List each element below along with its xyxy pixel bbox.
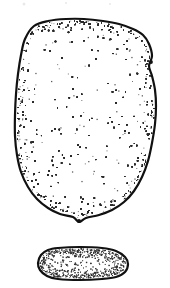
stipple-dot	[50, 25, 51, 26]
stipple-dot	[60, 255, 61, 256]
stipple-dot	[79, 125, 80, 126]
stipple-dot	[27, 158, 28, 159]
stipple-dot	[49, 269, 50, 270]
stipple-dot	[20, 101, 21, 102]
stipple-dot	[142, 165, 143, 166]
stipple-dot	[74, 255, 75, 256]
stipple-dot	[73, 277, 74, 278]
stipple-dot	[83, 278, 84, 279]
stipple-dot	[53, 208, 54, 209]
stipple-dot	[73, 276, 74, 277]
stipple-dot	[77, 250, 78, 251]
stipple-dot	[96, 276, 97, 277]
stipple-dot	[144, 112, 145, 113]
stipple-dot	[21, 162, 22, 163]
stipple-dot	[78, 272, 79, 273]
stipple-dot	[144, 60, 145, 61]
stipple-dot	[70, 155, 71, 156]
stipple-dot	[19, 139, 20, 140]
stipple-dot	[88, 274, 89, 275]
stipple-dot	[93, 273, 94, 274]
stipple-dot	[25, 118, 26, 119]
stipple-dot	[95, 254, 96, 255]
stipple-dot	[40, 196, 41, 197]
stipple-dot	[40, 263, 41, 264]
stipple-dot	[87, 277, 88, 278]
stipple-dot	[46, 253, 47, 254]
stipple-dot	[57, 107, 58, 108]
stipple-dot	[62, 276, 63, 277]
stipple-dot	[95, 258, 96, 259]
stipple-dot	[106, 274, 107, 275]
stipple-dot	[53, 272, 54, 273]
stipple-dot	[88, 65, 89, 66]
stipple-dot	[148, 51, 149, 52]
stipple-dot	[108, 26, 109, 27]
stipple-dot	[69, 164, 70, 165]
stipple-dot	[51, 23, 52, 24]
stipple-dot	[147, 135, 148, 136]
stipple-dot	[97, 255, 98, 256]
stipple-dot	[111, 201, 112, 202]
stipple-dot	[83, 215, 84, 216]
stipple-dot	[98, 253, 99, 254]
stipple-dot	[88, 37, 89, 38]
stipple-dot	[43, 270, 44, 271]
stipple-dot	[78, 269, 79, 270]
stipple-dot	[106, 253, 107, 254]
stipple-dot	[22, 167, 23, 168]
stipple-dot	[22, 118, 23, 119]
stipple-dot	[104, 257, 105, 258]
stipple-dot	[57, 274, 58, 275]
stipple-dot	[52, 42, 53, 43]
stipple-dot	[72, 116, 73, 117]
stipple-dot	[70, 275, 71, 276]
stipple-dot	[124, 44, 125, 45]
stipple-dot	[44, 49, 45, 50]
specimen-group	[15, 19, 156, 280]
stipple-dot	[43, 255, 44, 256]
stipple-dot	[94, 276, 95, 277]
stipple-dot	[65, 276, 66, 277]
stipple-dot	[146, 78, 147, 79]
stipple-dot	[79, 277, 80, 278]
stipple-dot	[81, 277, 82, 278]
stipple-dot	[97, 89, 98, 90]
stipple-dot	[32, 32, 33, 33]
stipple-dot	[88, 21, 89, 22]
stipple-dot	[47, 273, 48, 274]
stipple-dot	[122, 270, 123, 271]
stipple-dot	[143, 159, 144, 160]
stipple-dot	[37, 27, 38, 28]
stipple-dot	[54, 252, 55, 253]
stipple-dot	[123, 30, 124, 31]
stipple-dot	[51, 251, 52, 252]
stipple-dot	[63, 261, 64, 262]
stipple-dot	[78, 250, 79, 251]
stipple-dot	[123, 270, 124, 271]
stipple-dot	[80, 278, 81, 279]
stipple-dot	[113, 272, 114, 273]
upper-specimen	[15, 19, 156, 223]
stipple-dot	[40, 198, 41, 199]
stipple-dot	[146, 87, 147, 88]
stipple-dot	[123, 266, 124, 267]
stipple-dot	[153, 117, 154, 118]
stipple-dot	[85, 272, 86, 273]
stipple-dot	[19, 126, 20, 127]
stipple-dot	[59, 24, 60, 25]
stipple-dot	[62, 269, 63, 270]
stipple-dot	[49, 253, 50, 254]
stipple-dot	[19, 98, 20, 99]
stipple-dot	[119, 267, 120, 268]
stipple-dot	[115, 261, 116, 262]
stipple-dot	[63, 260, 64, 261]
stipple-dot	[115, 274, 116, 275]
stipple-dot	[106, 157, 107, 158]
stipple-dot	[95, 268, 96, 269]
stipple-dot	[46, 258, 47, 259]
stipple-dot	[59, 276, 60, 277]
stipple-dot	[81, 100, 82, 101]
stipple-dot	[48, 255, 49, 256]
stipple-dot	[60, 209, 61, 210]
